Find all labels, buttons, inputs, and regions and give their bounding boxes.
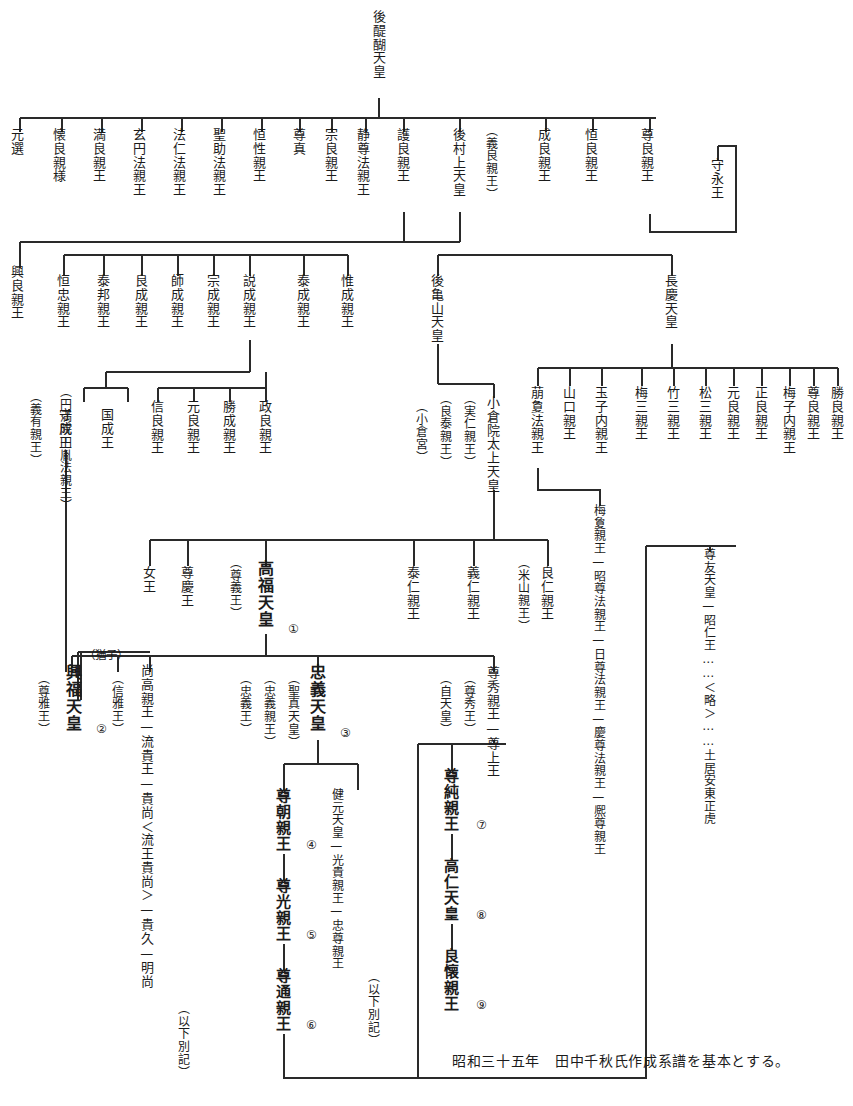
node-sonshu-o[interactable]: （尊秀王） [462,672,474,736]
succession-marker-7: ⑦ [476,818,487,832]
node-sonmasa[interactable]: （尊雅王） [36,672,48,736]
succession-marker-8: ⑧ [476,908,487,922]
node-yamaguchi[interactable]: 山口親王 [562,386,575,441]
succession-marker-3: ③ [340,726,351,740]
node-takezo[interactable]: 竹三親王 [666,386,679,441]
node-matsuzo[interactable]: 松三親王 [698,386,711,441]
node-jitenno[interactable]: （自天皇） [438,672,450,736]
node-tamako[interactable]: 玉子内親王 [594,386,607,455]
node-sonkei-o[interactable]: 尊慶王 [180,566,193,607]
node-sonshin[interactable]: 尊真 [292,128,305,156]
node-chokei[interactable]: 長慶天皇 [664,274,677,329]
node-naotaka-note: （以下別記） [176,1002,188,1078]
node-takanaga[interactable]: 尊良親王 [640,128,653,183]
succession-marker-9: ⑨ [476,998,487,1012]
node-masayoshi2[interactable]: 正良親王 [754,386,767,441]
node-joson[interactable]: 静尊法親王 [356,128,369,197]
node-nobuyoshi[interactable]: 信良親王 [150,400,163,455]
node-kengen-note: （以下別記） [366,970,378,1046]
node-umezo[interactable]: 梅三親王 [634,386,647,441]
node-naotaka-chain[interactable]: 尚高親王—流貴王—貴尚＜流王貴尚＞—貴久—明尚 [140,664,153,989]
connector-lines [0,0,853,1106]
node-morinaga[interactable]: 護良親王 [396,128,409,183]
node-kosho[interactable]: 恒性親王 [252,128,265,183]
source-footnote: 昭和三十五年 田中千秋氏作成系譜を基本とする。 [452,1050,790,1070]
node-tsunenaga[interactable]: 恒良親王 [584,128,597,183]
node-yoshihito2[interactable]: 良仁親王 [540,566,553,621]
node-kanenaga[interactable]: 懐良親様 [52,128,65,183]
node-yoneyama[interactable]: （米山親王） [516,556,528,632]
node-hokei-ho[interactable]: 萠夐法親王 [530,386,543,455]
node-munenaga[interactable]: 宗良親王 [324,128,337,183]
node-yoshikane[interactable]: 良懐親王 [442,948,457,1012]
node-morinaga-o[interactable]: 守永王 [710,158,723,199]
node-narinaga[interactable]: 成良親王 [537,128,550,183]
node-songi-o[interactable]: （尊義王） [228,556,240,620]
succession-marker-1: ① [288,622,299,636]
node-tadayoshi-o[interactable]: （忠義王） [238,672,250,736]
node-munenari[interactable]: 宗成親王 [206,274,219,329]
node-mitsunaga[interactable]: 満良親王 [92,128,105,183]
node-sonjun[interactable]: 尊純親王 [442,768,457,832]
genealogy-chart: 後醍醐天皇 元選 懐良親様 満良親王 玄円法親王 法仁法親王 聖助法親王 恒性親… [0,0,853,1106]
node-motoyoshi2[interactable]: 元良親王 [726,386,739,441]
node-kofuku-tenno-2[interactable]: 興福天皇 [64,664,80,732]
node-okinaga[interactable]: 興良親王 [10,265,23,320]
node-gomurakami[interactable]: 後村上天皇 [452,128,465,197]
node-nobumasa[interactable]: （信雅王） [110,672,122,736]
node-yasukuni[interactable]: 泰邦親王 [96,274,109,329]
node-sontsu[interactable]: 尊通親王 [274,968,289,1032]
node-sonko[interactable]: 尊光親王 [274,878,289,942]
node-korenari[interactable]: 惟成親王 [340,274,353,329]
node-honin[interactable]: 法仁法親王 [172,128,185,197]
node-ogura-miya[interactable]: （小倉宮） [414,400,426,464]
node-morinari-o[interactable]: 守成王 [58,408,71,449]
node-sanehito[interactable]: （実仁親王） [462,392,474,468]
node-sontomo[interactable]: 尊朝親王 [274,788,289,852]
node-yoshiyasu[interactable]: （良泰親王） [438,392,450,468]
node-tokinari[interactable]: 説成親王 [242,274,255,329]
node-norinaga[interactable]: （義良親王） [484,124,496,200]
succession-marker-5: ⑤ [306,928,317,942]
node-kuninari-o[interactable]: 国成王 [100,408,113,449]
node-masayoshi[interactable]: 政良親王 [258,400,271,455]
node-moronari[interactable]: 師成親王 [170,274,183,329]
node-gokameyama[interactable]: 後亀山天皇 [430,274,443,343]
node-katsuyoshi[interactable]: 勝良親王 [830,386,843,441]
node-takayoshi[interactable]: 尊良親王 [806,386,819,441]
succession-marker-6: ⑥ [306,1018,317,1032]
node-tadayoshi-s[interactable]: （忠義親王） [262,672,274,748]
adoption-note: （猶子） [84,646,128,662]
node-katsunari[interactable]: 勝成親王 [222,400,235,455]
node-godaigo[interactable]: 後醍醐天皇 [372,10,385,79]
node-umeko[interactable]: 梅子内親王 [782,386,795,455]
succession-marker-4: ④ [306,838,317,852]
node-kofuku-tenno[interactable]: 高福天皇 [256,560,272,628]
node-yasuhito[interactable]: 泰仁親王 [406,566,419,621]
node-yasunari[interactable]: 泰成親王 [296,274,309,329]
node-sontomo-chain[interactable]: 尊友天皇—昭仁王……＜略＞……土居安東正虎 [702,548,714,825]
node-yoshinari[interactable]: 良成親王 [134,274,147,329]
node-seishin[interactable]: （聖真天皇） [286,672,298,748]
node-ogurain[interactable]: 小倉院太上天皇 [486,396,499,492]
node-tadayoshi-tenno[interactable]: 忠義天皇 [308,664,324,732]
node-sonshu-chain[interactable]: 尊秀親王—尊上王 [486,666,499,778]
node-shojo[interactable]: 聖助法親王 [212,128,225,197]
succession-marker-2: ② [96,722,107,736]
node-yoshihito[interactable]: 義仁親王 [466,566,479,621]
node-motonobu[interactable]: 元選 [10,128,23,156]
node-giyu[interactable]: （義有親王） [28,390,40,466]
node-takahito[interactable]: 高仁天皇 [442,858,457,922]
node-tsunetada[interactable]: 恒忠親王 [56,274,69,329]
node-joo[interactable]: 女王 [142,566,155,594]
node-genen[interactable]: 玄円法親王 [132,128,145,197]
node-baikei-chain[interactable]: 梅夐親王—昭尊法親王—日尊法親王—慶尊法親王—熈尊親王 [592,504,604,855]
node-motoyoshi[interactable]: 元良親王 [186,400,199,455]
node-kengen-chain[interactable]: 健元天皇—光貴親王—忠尊親王 [330,788,342,970]
